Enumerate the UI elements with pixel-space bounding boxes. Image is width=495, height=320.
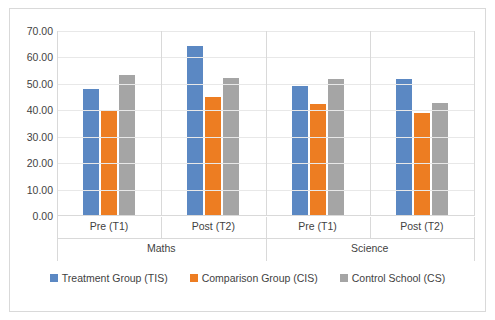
y-axis-tick-label: 20.00 [9,158,53,169]
bar-treatment-group-tis-3[interactable] [396,79,412,215]
legend-label: Comparison Group (CIS) [202,272,318,284]
x-axis-category-label: Post (T2) [161,219,265,233]
x-axis-group-label: Science [266,241,475,255]
axis-tier-divider [161,217,162,238]
y-axis-tick-label: 10.00 [9,184,53,195]
y-axis-tick-label: 70.00 [9,26,53,37]
category-separator [474,31,475,216]
category-separator [370,31,371,216]
bar-treatment-group-tis-2[interactable] [292,86,308,216]
axis-tier-divider [57,217,58,261]
bar-control-school-cs-2[interactable] [328,79,344,215]
bar-comparison-group-cis-2[interactable] [310,104,326,215]
bar-control-school-cs-1[interactable] [223,78,239,215]
legend-label: Control School (CS) [352,272,445,284]
plot-area [57,31,474,216]
bar-treatment-group-tis-0[interactable] [83,89,99,215]
category-separator [161,31,162,216]
x-axis-category-label: Pre (T1) [266,219,370,233]
axis-tier-divider [370,217,371,238]
legend-swatch-icon [190,274,198,282]
x-axis-group-label: Maths [57,241,266,255]
y-axis-tick-label: 30.00 [9,131,53,142]
y-axis-tick-label: 40.00 [9,105,53,116]
y-axis-tick-label: 0.00 [9,211,53,222]
bar-comparison-group-cis-1[interactable] [205,97,221,215]
y-axis-tick-label: 50.00 [9,78,53,89]
axis-tier-divider [474,217,475,261]
bar-control-school-cs-3[interactable] [432,103,448,215]
legend-swatch-icon [50,274,58,282]
y-axis-line [57,31,58,217]
x-axis-category-label: Post (T2) [370,219,474,233]
axis-tier-divider [266,217,267,261]
chart-container: 70.0060.0050.0040.0030.0020.0010.000.00 … [0,0,495,320]
axis-tier-divider-horizontal [57,238,474,239]
x-axis-category-label: Pre (T1) [57,219,161,233]
legend-label: Treatment Group (TIS) [62,272,168,284]
legend-item[interactable]: Treatment Group (TIS) [50,272,168,284]
bar-control-school-cs-0[interactable] [119,75,135,215]
chart-legend: Treatment Group (TIS)Comparison Group (C… [0,272,495,284]
y-axis-tick-label: 60.00 [9,52,53,63]
legend-item[interactable]: Control School (CS) [340,272,445,284]
legend-swatch-icon [340,274,348,282]
category-separator [266,31,267,216]
legend-item[interactable]: Comparison Group (CIS) [190,272,318,284]
